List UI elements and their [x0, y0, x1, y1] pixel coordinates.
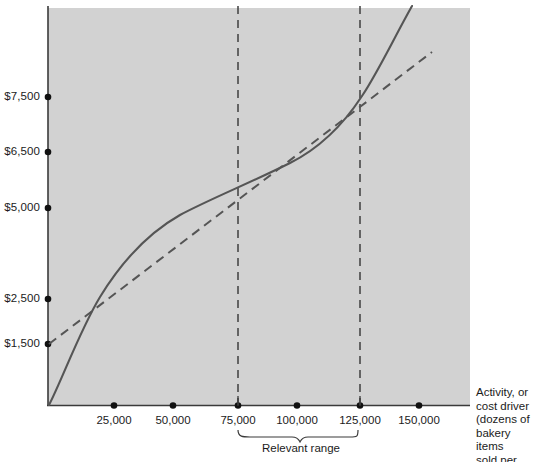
relevant-range-brace: [238, 430, 358, 442]
y-tick-label-7500: $7,500: [0, 90, 40, 102]
y-tick-dot-6500: [45, 149, 52, 156]
chart-figure: $7,500 $6,500 $5,000 $2,500 $1,500 25,00…: [0, 0, 537, 462]
relevant-range-label: Relevant range: [231, 442, 371, 454]
x-axis-title-line-2: cost driver: [476, 400, 537, 414]
y-tick-label-6500: $6,500: [0, 145, 40, 157]
x-tick-label-150000: 150,000: [384, 414, 454, 426]
straight-line-approximation-series: [49, 52, 432, 344]
y-tick-dot-5000: [45, 205, 52, 212]
y-tick-dot-2500: [45, 296, 52, 303]
x-tick-dot-150000: [416, 402, 423, 409]
x-axis-title-line-1: Activity, or: [476, 386, 537, 400]
x-tick-dot-25000: [111, 402, 118, 409]
y-tick-label-1500: $1,500: [0, 337, 40, 349]
x-tick-dot-100000: [294, 402, 301, 409]
x-tick-label-100000: 100,000: [262, 414, 332, 426]
x-tick-label-50000: 50,000: [138, 414, 208, 426]
y-tick-dot-7500: [45, 94, 52, 101]
chart-canvas: [0, 0, 537, 462]
y-tick-label-5000: $5,000: [0, 201, 40, 213]
x-axis-title: Activity, or cost driver (dozens of bake…: [476, 386, 537, 462]
x-axis-title-line-3: (dozens of: [476, 413, 537, 427]
x-tick-dot-50000: [170, 402, 177, 409]
x-axis-title-line-5: sold per: [476, 454, 537, 462]
x-axis-title-line-4: bakery items: [476, 427, 537, 454]
y-tick-label-2500: $2,500: [0, 292, 40, 304]
